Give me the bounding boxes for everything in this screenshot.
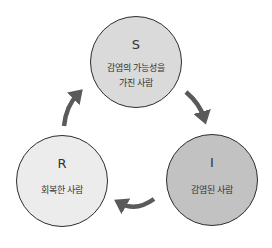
arrow-i-to-r [120,199,154,207]
node-s-label-line1: 감염의 가능성을 [91,61,181,76]
node-r: R 회복한 사람 [16,135,108,227]
node-s: S 감염의 가능성을 가진 사람 [90,16,182,108]
node-r-letter: R [17,156,107,171]
node-i-label: 감염된 사람 [167,183,257,198]
node-i: I 감염된 사람 [166,134,258,226]
arrow-r-to-s [64,94,78,126]
node-i-letter: I [167,155,257,170]
node-r-label: 회복한 사람 [17,183,107,198]
node-s-label-line2: 가진 사람 [91,76,181,91]
node-s-letter: S [91,37,181,52]
arrow-s-to-i [186,92,204,118]
